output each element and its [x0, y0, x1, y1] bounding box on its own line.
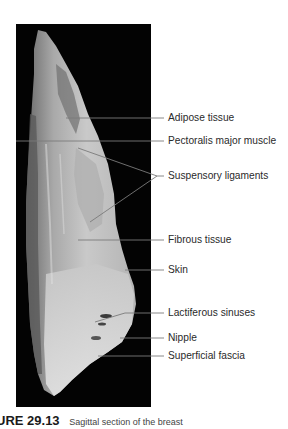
figure-number: URE 29.13	[0, 413, 60, 428]
figure-description: Sagittal section of the breast	[69, 417, 183, 427]
label-pectoralis-major-muscle: Pectoralis major muscle	[168, 135, 276, 147]
label-lactiferous-sinuses: Lactiferous sinuses	[168, 307, 255, 319]
label-fibrous-tissue: Fibrous tissue	[168, 234, 231, 246]
label-skin: Skin	[168, 264, 188, 276]
label-superficial-fascia: Superficial fascia	[168, 350, 245, 362]
figure-caption: URE 29.13 Sagittal section of the breast	[0, 414, 183, 429]
label-suspensory-ligaments: Suspensory ligaments	[168, 170, 268, 182]
label-nipple: Nipple	[168, 332, 197, 344]
label-adipose-tissue: Adipose tissue	[168, 112, 234, 124]
specimen-photo	[16, 24, 151, 407]
specimen-image	[16, 24, 151, 407]
